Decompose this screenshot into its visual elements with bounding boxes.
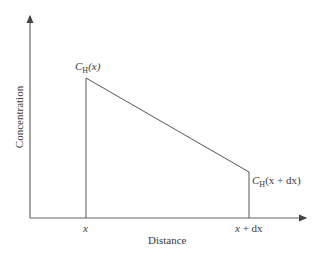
x-tick-label-x-plus-dx: x + dx (235, 222, 263, 234)
x-axis-label: Distance (148, 234, 186, 246)
concentration-gradient-line (86, 78, 249, 172)
concentration-diagram (0, 0, 316, 254)
label-ch-x: CH(x) (75, 60, 100, 75)
x-tick-label-x: x (83, 222, 88, 234)
label-ch-x-plus-dx: CH(x + dx) (252, 174, 301, 189)
y-axis-label: Concentration (13, 81, 25, 153)
